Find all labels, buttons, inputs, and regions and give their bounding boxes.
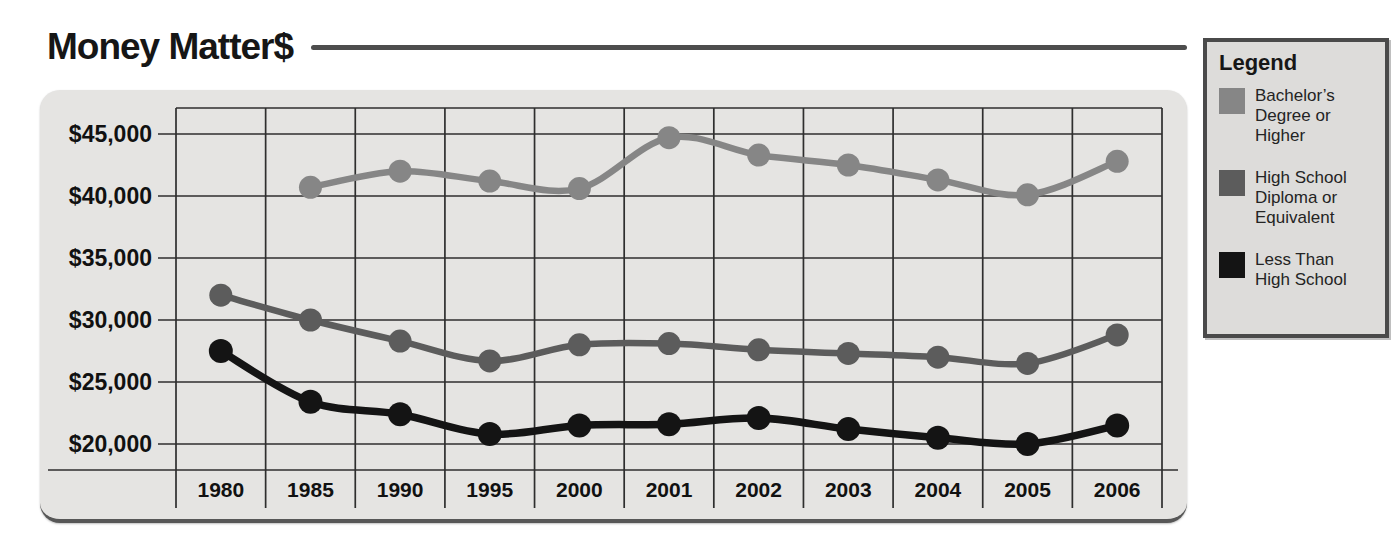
- x-axis-tick-label: 1985: [287, 478, 334, 501]
- legend-swatch-0: [1219, 88, 1245, 114]
- y-axis-tick-label: $30,000: [69, 307, 152, 333]
- x-axis-tick-label: 2003: [825, 478, 872, 501]
- x-axis-tick-label: 1990: [377, 478, 424, 501]
- chart-panel: $45,000$40,000$35,000$30,000$25,000$20,0…: [40, 90, 1187, 523]
- data-point: [926, 168, 949, 191]
- page: Money Matter$ $45,000$40,000$35,000$30,0…: [0, 0, 1392, 548]
- data-point: [1106, 150, 1129, 173]
- legend-item: Bachelor’s Degree or Higher: [1219, 86, 1375, 146]
- data-point: [657, 412, 681, 436]
- legend-item-label: High School Diploma or Equivalent: [1255, 168, 1367, 228]
- data-point: [926, 346, 949, 369]
- data-point: [209, 284, 232, 307]
- y-axis-tick-label: $20,000: [69, 431, 152, 457]
- legend-item-label: Bachelor’s Degree or Higher: [1255, 86, 1367, 146]
- legend-item-label: Less Than High School: [1255, 250, 1367, 290]
- legend-items: Bachelor’s Degree or HigherHigh School D…: [1219, 86, 1375, 290]
- data-point: [299, 176, 322, 199]
- data-point: [478, 349, 501, 372]
- legend: Legend Bachelor’s Degree or HigherHigh S…: [1203, 38, 1389, 338]
- x-axis-tick-label: 2002: [735, 478, 782, 501]
- y-axis-tick-label: $45,000: [69, 121, 152, 147]
- data-point: [389, 330, 412, 353]
- data-point: [658, 332, 681, 355]
- title-rule: [311, 45, 1187, 50]
- legend-title: Legend: [1219, 50, 1375, 76]
- data-point: [568, 333, 591, 356]
- line-chart: $45,000$40,000$35,000$30,000$25,000$20,0…: [40, 90, 1187, 519]
- data-point: [298, 390, 322, 414]
- data-point: [747, 338, 770, 361]
- title-row: Money Matter$: [47, 22, 1187, 70]
- x-axis-tick-label: 2000: [556, 478, 603, 501]
- x-axis-tick-label: 2001: [646, 478, 693, 501]
- data-point: [1016, 352, 1039, 375]
- data-point: [1016, 432, 1040, 456]
- data-point: [1016, 183, 1039, 206]
- y-axis-tick-label: $35,000: [69, 245, 152, 271]
- legend-item: Less Than High School: [1219, 250, 1375, 290]
- data-point: [1106, 323, 1129, 346]
- legend-item: High School Diploma or Equivalent: [1219, 168, 1375, 228]
- data-point: [567, 413, 591, 437]
- data-point: [658, 126, 681, 149]
- data-point: [568, 177, 591, 200]
- x-axis-tick-label: 1980: [197, 478, 244, 501]
- data-point: [478, 422, 502, 446]
- legend-swatch-1: [1219, 170, 1245, 196]
- x-axis-tick-label: 2006: [1094, 478, 1141, 501]
- y-axis-tick-label: $40,000: [69, 183, 152, 209]
- y-axis-tick-label: $25,000: [69, 369, 152, 395]
- legend-swatch-2: [1219, 252, 1245, 278]
- x-axis-tick-label: 2005: [1004, 478, 1051, 501]
- data-point: [389, 160, 412, 183]
- data-point: [1105, 413, 1129, 437]
- data-point: [299, 309, 322, 332]
- data-point: [388, 402, 412, 426]
- data-point: [478, 170, 501, 193]
- chart-title: Money Matter$: [47, 28, 311, 65]
- data-point: [837, 342, 860, 365]
- data-point: [747, 406, 771, 430]
- data-point: [209, 339, 233, 363]
- data-point: [837, 154, 860, 177]
- x-axis-tick-label: 2004: [915, 478, 962, 501]
- data-point: [926, 426, 950, 450]
- x-axis-tick-label: 1995: [466, 478, 513, 501]
- data-point: [747, 144, 770, 167]
- data-point: [836, 417, 860, 441]
